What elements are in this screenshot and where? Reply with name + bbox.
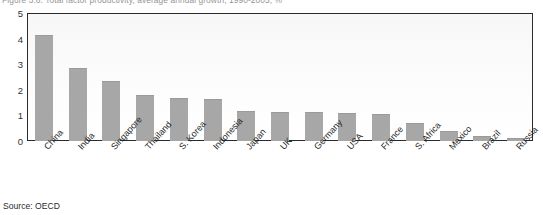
- x-axis-label-slot: UK: [263, 143, 297, 199]
- x-axis-label-slot: Singapore: [94, 143, 128, 199]
- bar[interactable]: [102, 81, 120, 141]
- bar-slot: [297, 13, 331, 141]
- y-axis-tick: 1: [18, 110, 23, 121]
- bar-slot: [364, 13, 398, 141]
- x-axis-label-slot: India: [61, 143, 95, 199]
- y-axis-tick: 2: [18, 84, 23, 95]
- bar-slot: [466, 13, 500, 141]
- y-axis-tick: 3: [18, 59, 23, 70]
- x-axis-label-slot: Thailand: [128, 143, 162, 199]
- x-axis-label-slot: Japan: [229, 143, 263, 199]
- x-axis-label-slot: China: [27, 143, 61, 199]
- source-note: Source: OECD: [3, 201, 60, 211]
- bar-series: [27, 13, 533, 141]
- x-axis-labels: ChinaIndiaSingaporeThailandS. KoreaIndon…: [27, 143, 533, 199]
- x-axis-label-slot: S. Africa: [398, 143, 432, 199]
- bar-slot: [94, 13, 128, 141]
- y-axis-tick: 0: [18, 136, 23, 147]
- bar[interactable]: [35, 35, 53, 141]
- y-axis-tick: 4: [18, 33, 23, 44]
- bar-slot: [499, 13, 533, 141]
- x-axis-label-slot: Mexico: [432, 143, 466, 199]
- bar-slot: [27, 13, 61, 141]
- x-axis-label-slot: France: [364, 143, 398, 199]
- x-axis-label-slot: Indonesia: [196, 143, 230, 199]
- bar-slot: [263, 13, 297, 141]
- x-axis-label-slot: USA: [331, 143, 365, 199]
- x-axis-label-slot: Brazil: [466, 143, 500, 199]
- x-axis-label-slot: S. Korea: [162, 143, 196, 199]
- bar-chart: 012345 ChinaIndiaSingaporeThailandS. Kor…: [0, 0, 543, 215]
- y-axis-tick: 5: [18, 8, 23, 19]
- x-axis-label-slot: Germany: [297, 143, 331, 199]
- bar-slot: [398, 13, 432, 141]
- bar[interactable]: [69, 68, 87, 141]
- bar-slot: [61, 13, 95, 141]
- x-axis-label-slot: Russia: [499, 143, 533, 199]
